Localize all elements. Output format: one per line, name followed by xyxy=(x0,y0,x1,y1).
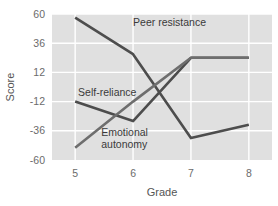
series-label: Emotional xyxy=(101,126,148,138)
x-axis-title: Grade xyxy=(147,186,178,198)
series-label: Self-reliance xyxy=(78,86,137,98)
series-label: Peer resistance xyxy=(133,16,206,28)
y-axis-title: Score xyxy=(4,73,16,102)
y-tick-label: -12 xyxy=(30,95,45,107)
y-tick-label: 12 xyxy=(33,66,45,78)
x-tick-label: 6 xyxy=(130,167,136,179)
series-label: autonomy xyxy=(101,138,148,150)
y-tick-label: 36 xyxy=(33,37,45,49)
chart-container: 603612-12-36-60 5678 Peer resistanceSelf… xyxy=(0,0,278,206)
x-tick-label: 7 xyxy=(188,167,194,179)
x-tick-label: 5 xyxy=(72,167,78,179)
y-tick-label: -60 xyxy=(30,154,45,166)
y-tick-label: 60 xyxy=(33,8,45,20)
y-tick-label: -36 xyxy=(30,124,45,136)
x-tick-label: 8 xyxy=(246,167,252,179)
line-chart: 603612-12-36-60 5678 Peer resistanceSelf… xyxy=(0,0,278,206)
